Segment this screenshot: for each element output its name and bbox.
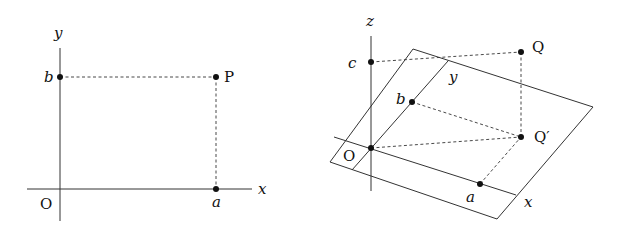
y-axis-label: y: [53, 24, 63, 42]
diagram-3d: z y x c b a O Q Q′: [330, 12, 593, 219]
point-b: [57, 74, 63, 80]
xy-plane: [330, 49, 593, 219]
z-tick-label-c: c: [348, 54, 357, 72]
dashed-line-c-to-q: [371, 52, 521, 62]
point-p: [213, 74, 219, 80]
point-a: [477, 181, 483, 187]
y-axis: [352, 61, 448, 170]
point-qprime: [518, 134, 524, 140]
point-c: [368, 59, 374, 65]
point-p-label: P: [224, 68, 234, 86]
point-origin: [368, 145, 374, 151]
x-axis: [334, 137, 516, 195]
origin-label: O: [343, 147, 355, 165]
dashed-line-a-to-qprime: [480, 137, 521, 184]
point-q: [518, 49, 524, 55]
point-q-label: Q: [532, 38, 544, 56]
z-axis-label: z: [365, 12, 374, 30]
point-b: [409, 99, 415, 105]
x-axis-label: x: [258, 180, 267, 198]
dashed-line-b-to-qprime: [412, 102, 521, 137]
point-a: [213, 186, 219, 192]
x-tick-label-a: a: [212, 193, 221, 211]
x-axis-label: x: [524, 193, 533, 211]
y-tick-label-b: b: [396, 90, 406, 108]
point-qprime-label: Q′: [534, 128, 550, 146]
dashed-line-o-to-qprime: [371, 137, 521, 148]
diagram-2d: y x O P b a: [27, 24, 267, 221]
y-tick-label-b: b: [44, 68, 54, 86]
x-tick-label-a: a: [466, 188, 475, 206]
origin-label: O: [40, 195, 52, 213]
figure: y x O P b a z y x c b a O Q Q′: [0, 0, 629, 236]
y-axis-label: y: [448, 68, 458, 86]
